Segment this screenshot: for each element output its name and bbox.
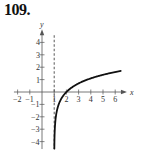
- y-tick-label: −4: [31, 138, 40, 147]
- function-graph: xy−2−1123456−4−3−2−11234: [0, 0, 141, 153]
- function-curve: [54, 71, 120, 149]
- x-tick-label: 4: [89, 95, 93, 104]
- x-tick-label: −2: [13, 95, 22, 104]
- x-axis-arrow-icon: [121, 90, 127, 94]
- y-tick-label: 1: [36, 76, 40, 85]
- y-tick-label: −2: [31, 113, 40, 122]
- y-tick-label: 4: [36, 38, 40, 47]
- y-tick-label: −3: [31, 125, 40, 134]
- y-axis-label: y: [39, 20, 44, 29]
- y-tick-label: 2: [36, 63, 40, 72]
- y-tick-label: −1: [31, 100, 40, 109]
- x-tick-label: 6: [113, 95, 117, 104]
- y-tick-label: 3: [36, 51, 40, 60]
- y-axis-arrow-icon: [40, 29, 44, 35]
- x-tick-label: 2: [64, 95, 68, 104]
- x-tick-label: 5: [101, 95, 105, 104]
- x-axis-label: x: [129, 88, 134, 97]
- x-tick-label: 3: [77, 95, 81, 104]
